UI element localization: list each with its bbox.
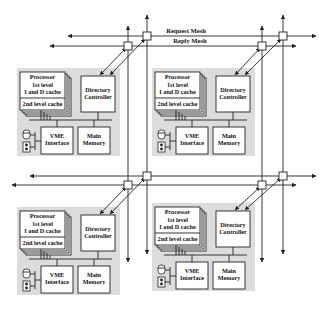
router-reply-top-left	[124, 42, 132, 50]
processor-label: Processor	[30, 212, 56, 219]
cluster-node-bottom-right: Processor 1st level I and D cache 2nd le…	[152, 203, 255, 291]
memory-label-2: Memory	[83, 278, 107, 285]
router-reply-bottom-right	[258, 181, 266, 189]
memory-label-1: Main	[87, 271, 102, 278]
l1-cache-label-1: 1st level	[32, 81, 53, 88]
request-mesh-label: Request Mesh	[166, 27, 206, 34]
memory-label-2: Memory	[218, 274, 242, 281]
processor-label: Processor	[165, 73, 191, 80]
l2-cache-label: 2nd level cache	[23, 239, 63, 246]
memory-label-2: Memory	[83, 139, 107, 146]
router-reply-bottom-left	[124, 181, 132, 189]
vme-label-2: Interface	[45, 139, 69, 146]
dash-multiprocessor-diagram: Request Mesh Reply Mesh Processor 1st le…	[0, 0, 332, 310]
processor-label: Processor	[30, 73, 56, 80]
vme-label-1: VME	[50, 271, 64, 278]
disk-icon	[23, 130, 30, 139]
cluster-node-bottom-left: Processor 1st level I and D cache 2nd le…	[17, 207, 120, 295]
tape-drive-icon	[23, 281, 30, 291]
memory-label-1: Main	[222, 132, 237, 139]
disk-icon	[158, 265, 165, 274]
directory-label-2: Controller	[219, 228, 247, 235]
cluster-node-top-left: Processor 1st level I and D cache 2nd le…	[17, 68, 120, 156]
directory-label-2: Controller	[219, 93, 247, 100]
l2-cache-label: 2nd level cache	[158, 100, 198, 107]
tape-drive-icon	[158, 277, 165, 287]
l1-cache-label-2: I and D cache	[24, 227, 61, 234]
memory-label-2: Memory	[218, 139, 242, 146]
vme-label-1: VME	[185, 267, 199, 274]
directory-label-1: Directory	[85, 86, 111, 93]
l2-cache-label: 2nd level cache	[158, 235, 198, 242]
tape-drive-icon	[158, 142, 165, 152]
l1-cache-label-2: I and D cache	[159, 88, 196, 95]
memory-label-1: Main	[222, 267, 237, 274]
l1-cache-label-1: 1st level	[167, 216, 188, 223]
vme-label-1: VME	[50, 132, 64, 139]
router-request-bottom-left	[143, 172, 151, 180]
directory-label-2: Controller	[84, 93, 112, 100]
processor-label: Processor	[165, 208, 191, 215]
cluster-node-top-right: Processor 1st level I and D cache 2nd le…	[152, 68, 255, 156]
disk-icon	[23, 269, 30, 278]
reply-mesh-label: Reply Mesh	[173, 37, 207, 44]
l1-cache-label-1: 1st level	[167, 81, 188, 88]
disk-icon	[158, 130, 165, 139]
router-request-top-left	[143, 32, 151, 40]
router-request-top-right	[279, 32, 287, 40]
l1-cache-label-2: I and D cache	[159, 223, 196, 230]
router-request-bottom-right	[279, 172, 287, 180]
memory-label-1: Main	[87, 132, 102, 139]
l1-cache-label-1: 1st level	[32, 220, 53, 227]
l1-cache-label-2: I and D cache	[24, 88, 61, 95]
l2-cache-label: 2nd level cache	[23, 100, 63, 107]
directory-label-2: Controller	[84, 232, 112, 239]
directory-label-1: Directory	[220, 221, 246, 228]
router-reply-top-right	[258, 42, 266, 50]
vme-label-2: Interface	[180, 274, 204, 281]
directory-label-1: Directory	[85, 225, 111, 232]
tape-drive-icon	[23, 142, 30, 152]
vme-label-2: Interface	[45, 278, 69, 285]
vme-label-1: VME	[185, 132, 199, 139]
vme-label-2: Interface	[180, 139, 204, 146]
directory-label-1: Directory	[220, 86, 246, 93]
